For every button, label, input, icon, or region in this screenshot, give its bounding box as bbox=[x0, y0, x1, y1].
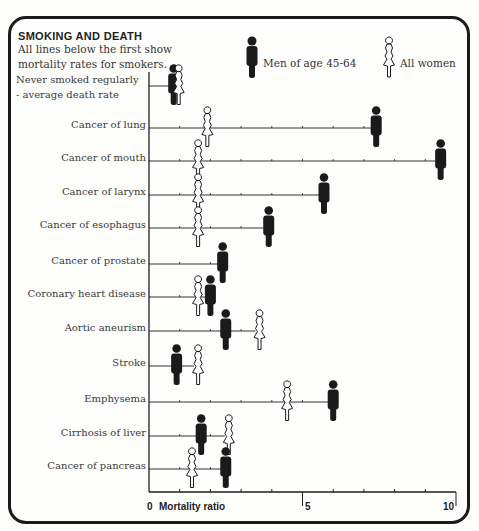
man-figure-icon bbox=[220, 447, 231, 488]
row-label: Cancer of pancreas bbox=[47, 460, 146, 472]
man-figure-icon bbox=[171, 344, 182, 385]
row-label: Coronary heart disease bbox=[28, 288, 146, 300]
woman-figure-icon bbox=[282, 381, 293, 421]
woman-figure-icon bbox=[193, 345, 204, 385]
man-figure-icon bbox=[196, 414, 207, 455]
axis-mid-label: 5 bbox=[305, 501, 311, 512]
axis-title: Mortality ratio bbox=[159, 501, 225, 512]
man-figure-icon bbox=[318, 173, 329, 214]
man-figure-icon bbox=[220, 309, 231, 350]
axis-max-label: 10 bbox=[443, 501, 454, 512]
row-label: Emphysema bbox=[84, 393, 146, 405]
row-label: Cancer of larynx bbox=[62, 186, 146, 198]
row-label: Cancer of lung bbox=[71, 119, 146, 131]
woman-figure-icon bbox=[193, 276, 204, 316]
row-label: Never smoked regularly- average death ra… bbox=[16, 72, 139, 102]
row-label: Stroke bbox=[112, 357, 146, 369]
axis-zero-label: 0 bbox=[147, 501, 153, 512]
row-label: Cirrhosis of liver bbox=[61, 427, 146, 439]
row-label: Cancer of prostate bbox=[51, 255, 146, 267]
man-figure-icon bbox=[217, 242, 228, 283]
woman-figure-icon bbox=[186, 448, 197, 488]
woman-figure-icon bbox=[254, 310, 265, 350]
row-label: Cancer of esophagus bbox=[40, 219, 146, 231]
row-label: Aortic aneurism bbox=[65, 322, 146, 334]
man-figure-icon bbox=[328, 380, 339, 421]
man-figure-icon bbox=[205, 275, 216, 316]
man-figure-icon bbox=[435, 139, 446, 180]
woman-figure-icon bbox=[193, 207, 204, 247]
row-label: Cancer of mouth bbox=[61, 152, 146, 164]
woman-figure-icon bbox=[202, 107, 213, 147]
man-figure-icon bbox=[263, 206, 274, 247]
man-figure-icon bbox=[371, 106, 382, 147]
